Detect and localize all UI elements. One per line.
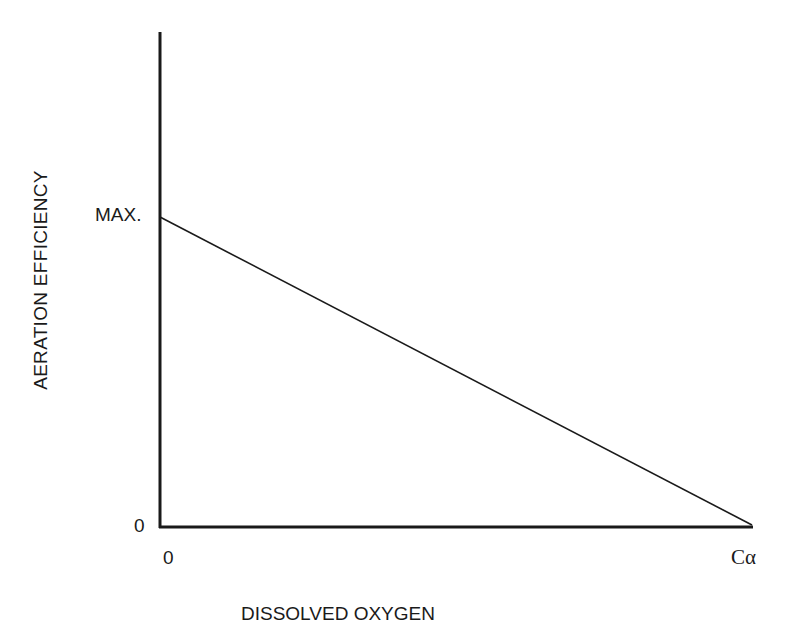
efficiency-line xyxy=(160,217,752,525)
x-tick-label-zero: 0 xyxy=(163,548,174,567)
y-tick-label-zero: 0 xyxy=(134,516,145,535)
y-tick-label-max: MAX. xyxy=(95,205,141,224)
x-axis-title: DISSOLVED OXYGEN xyxy=(241,604,435,623)
x-tick-label-c-alpha: Cα xyxy=(731,547,756,568)
chart-plot-area xyxy=(0,0,800,623)
y-axis-title: AERATION EFFICIENCY xyxy=(30,170,52,390)
